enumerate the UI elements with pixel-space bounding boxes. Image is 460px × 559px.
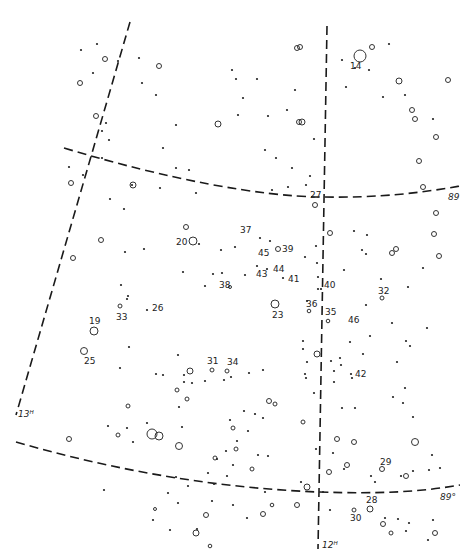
star-dot-icon bbox=[349, 341, 351, 343]
star-ring-icon bbox=[185, 397, 189, 401]
star-dot-icon bbox=[404, 387, 406, 389]
star-label: 42 bbox=[355, 369, 366, 379]
star-label: 27 bbox=[310, 190, 321, 200]
star-dot-icon bbox=[175, 167, 177, 169]
star-dot-icon bbox=[333, 370, 335, 372]
star-dot-icon bbox=[404, 94, 406, 96]
star-dot-icon bbox=[141, 82, 143, 84]
star-dot-icon bbox=[380, 278, 382, 280]
bright-stars bbox=[67, 45, 451, 548]
star-dot-icon bbox=[412, 416, 414, 418]
star-ring-icon bbox=[69, 181, 74, 186]
star-dot-icon bbox=[362, 353, 364, 355]
star-dot-icon bbox=[397, 518, 399, 520]
star-ring-icon bbox=[328, 231, 333, 236]
star-ring-icon bbox=[99, 238, 104, 243]
star-label: 23 bbox=[272, 310, 283, 320]
star-dot-icon bbox=[405, 340, 407, 342]
star-ring-icon bbox=[176, 443, 183, 450]
star-dot-icon bbox=[302, 348, 304, 350]
star-dot-icon bbox=[138, 57, 140, 59]
star-ring-icon bbox=[352, 440, 357, 445]
star-ring-icon bbox=[234, 447, 238, 451]
star-ring-icon bbox=[304, 484, 310, 490]
star-ring-icon bbox=[187, 368, 193, 374]
star-dot-icon bbox=[365, 253, 367, 255]
star-ring-icon bbox=[307, 309, 311, 313]
star-label: 28 bbox=[366, 495, 378, 505]
star-ring-icon bbox=[301, 420, 305, 424]
star-ring-icon bbox=[193, 530, 199, 536]
star-dot-icon bbox=[341, 59, 343, 61]
star-dot-icon bbox=[119, 367, 121, 369]
star-ring-icon bbox=[250, 467, 254, 471]
star-dot-icon bbox=[332, 452, 334, 454]
star-dot-icon bbox=[426, 327, 428, 329]
star-chart: 1427372045394443413840323626332335194625… bbox=[0, 0, 460, 559]
grid-label-dec-89-bottom: 89° bbox=[440, 492, 456, 502]
star-dot-icon bbox=[162, 147, 164, 149]
star-ring-icon bbox=[273, 402, 277, 406]
star-ring-icon bbox=[432, 232, 437, 237]
star-ring-icon bbox=[71, 256, 76, 261]
star-dot-icon bbox=[117, 60, 119, 62]
star-dot-icon bbox=[340, 364, 342, 366]
star-dot-icon bbox=[101, 157, 103, 159]
star-label: 39 bbox=[282, 244, 294, 254]
star-dot-icon bbox=[262, 369, 264, 371]
star-dot-icon bbox=[183, 374, 185, 376]
star-dot-icon bbox=[236, 440, 238, 442]
coordinate-grid bbox=[16, 22, 460, 549]
star-dot-icon bbox=[408, 522, 410, 524]
star-label: 41 bbox=[288, 274, 299, 284]
star-label: 38 bbox=[219, 280, 231, 290]
star-dot-icon bbox=[231, 69, 233, 71]
star-dot-icon bbox=[143, 248, 145, 250]
star-dot-icon bbox=[322, 491, 324, 493]
grid-label-ra-13h: 13ᴴ bbox=[18, 409, 34, 419]
star-label: 36 bbox=[306, 299, 318, 309]
star-dot-icon bbox=[287, 186, 289, 188]
star-ring-icon bbox=[345, 463, 350, 468]
star-ring-icon bbox=[90, 327, 98, 335]
star-dot-icon bbox=[256, 78, 258, 80]
star-dot-icon bbox=[365, 304, 367, 306]
star-dot-icon bbox=[182, 271, 184, 273]
star-dot-icon bbox=[127, 295, 129, 297]
star-dot-icon bbox=[409, 345, 411, 347]
star-dot-icon bbox=[109, 198, 111, 200]
star-dot-icon bbox=[187, 485, 189, 487]
star-label: 30 bbox=[350, 513, 362, 523]
star-dot-icon bbox=[191, 382, 193, 384]
star-dot-icon bbox=[169, 529, 171, 531]
star-label: 35 bbox=[325, 307, 336, 317]
star-dot-icon bbox=[162, 374, 164, 376]
star-dot-icon bbox=[103, 489, 105, 491]
star-dot-icon bbox=[237, 114, 239, 116]
star-dot-icon bbox=[177, 354, 179, 356]
star-dot-icon bbox=[204, 380, 206, 382]
star-dot-icon bbox=[294, 89, 296, 91]
star-dot-icon bbox=[366, 234, 368, 236]
star-dot-icon bbox=[167, 492, 169, 494]
dec-89-top-line bbox=[64, 148, 460, 197]
star-ring-icon bbox=[295, 46, 300, 51]
star-ring-icon bbox=[446, 78, 451, 83]
star-dot-icon bbox=[244, 274, 246, 276]
star-dot-icon bbox=[212, 273, 214, 275]
star-dot-icon bbox=[329, 509, 331, 511]
star-ring-icon bbox=[118, 304, 122, 308]
star-dot-icon bbox=[68, 166, 70, 168]
star-ring-icon bbox=[352, 508, 356, 512]
star-label: 40 bbox=[324, 280, 336, 290]
star-dot-icon bbox=[267, 115, 269, 117]
star-dot-icon bbox=[211, 500, 213, 502]
star-label: 29 bbox=[380, 457, 392, 467]
star-dot-icon bbox=[230, 376, 232, 378]
star-ring-icon bbox=[326, 319, 330, 323]
star-ring-icon bbox=[413, 117, 418, 122]
star-label: 44 bbox=[273, 264, 285, 274]
star-dot-icon bbox=[232, 464, 234, 466]
star-dot-icon bbox=[264, 491, 266, 493]
star-dot-icon bbox=[304, 256, 306, 258]
